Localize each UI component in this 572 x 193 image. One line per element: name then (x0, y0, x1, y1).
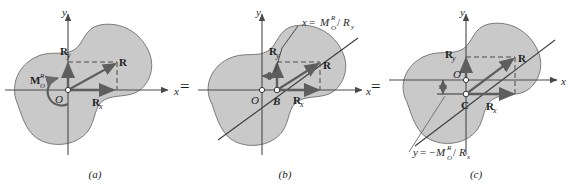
origin-label: O (251, 94, 259, 106)
svg-text:O: O (447, 154, 452, 162)
svg-text:=: = (309, 16, 315, 28)
svg-text:y: y (66, 51, 71, 60)
svg-text:x: x (98, 102, 103, 111)
panel-a: x y O R R x R y M (0, 0, 190, 193)
vector-R-label: R (119, 56, 128, 68)
svg-text:/: / (453, 146, 457, 158)
svg-text:y: y (275, 51, 280, 60)
figure-root: x y O R R x R y M (0, 0, 572, 193)
svg-text:y: y (350, 23, 355, 31)
svg-text:−: − (429, 146, 435, 158)
svg-text:y: y (412, 146, 418, 158)
svg-text:R: R (39, 72, 45, 80)
point-C-label: C (461, 99, 469, 111)
svg-text:x: x (492, 106, 497, 115)
vector-Rx-label: R x (486, 100, 497, 115)
y-axis-label: y (61, 6, 67, 18)
panel-b: x y O B R R x R y (190, 0, 380, 193)
svg-text:R: R (446, 144, 452, 152)
panel-a-caption: (a) (0, 168, 190, 180)
svg-text:x: x (299, 100, 304, 109)
panel-c-canvas: x y O C R R x R y (381, 0, 572, 170)
svg-text:R: R (458, 146, 466, 158)
origin-point (259, 87, 264, 92)
panel-b-caption: (b) (190, 168, 380, 180)
x-axis-label: x (173, 85, 179, 97)
svg-text:x: x (466, 153, 471, 161)
svg-text:M: M (319, 16, 330, 28)
panel-c-caption: (c) (381, 168, 571, 180)
point-C (463, 91, 469, 97)
svg-text:M: M (435, 146, 446, 158)
vector-R-label: R (518, 52, 527, 64)
panel-c: x y O C R R x R y (381, 0, 571, 193)
equals-sign-2: = (371, 77, 381, 97)
origin-point (65, 87, 70, 92)
svg-text:x: x (301, 16, 307, 28)
svg-text:y: y (451, 54, 456, 63)
panel-a-canvas: x y O R R x R y M (0, 0, 190, 170)
formula-y: y = − M R O / R x (412, 144, 471, 162)
rigid-body-shape (403, 23, 541, 143)
svg-text:=: = (420, 146, 426, 158)
svg-text:R: R (330, 14, 336, 22)
vector-R-label: R (323, 59, 332, 71)
svg-text:/: / (337, 16, 341, 28)
origin-label: O (453, 68, 461, 80)
origin-point (463, 77, 468, 82)
equals-sign-1: = (180, 77, 190, 97)
y-axis-label: y (255, 6, 261, 18)
svg-text:R: R (342, 16, 350, 28)
origin-label: O (55, 93, 63, 105)
x-axis-label: x (560, 75, 566, 87)
svg-text:O: O (331, 24, 336, 32)
point-B-label: B (272, 95, 280, 107)
y-axis-label: y (459, 6, 465, 18)
point-B (274, 87, 280, 93)
panel-b-canvas: x y O B R R x R y (190, 0, 380, 170)
svg-text:O: O (40, 82, 45, 90)
